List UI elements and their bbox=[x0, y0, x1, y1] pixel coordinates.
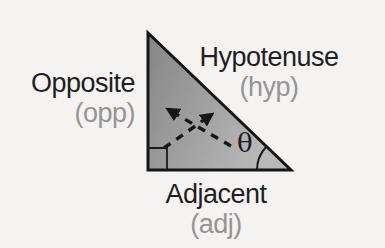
hypotenuse-abbr-text: (hyp) bbox=[199, 72, 339, 102]
trig-triangle-diagram: Opposite (opp) Hypotenuse (hyp) Adjacent… bbox=[0, 0, 385, 248]
hypotenuse-label-text: Hypotenuse bbox=[199, 42, 339, 72]
theta-symbol: θ bbox=[237, 128, 253, 158]
opposite-label-text: Opposite bbox=[31, 68, 135, 98]
adjacent-label-text: Adjacent bbox=[146, 179, 286, 209]
adjacent-abbr-text: (adj) bbox=[146, 209, 286, 239]
hypotenuse-side-label: Hypotenuse (hyp) bbox=[199, 42, 339, 102]
opposite-abbr-text: (opp) bbox=[31, 98, 135, 128]
opposite-side-label: Opposite (opp) bbox=[31, 68, 135, 128]
adjacent-side-label: Adjacent (adj) bbox=[146, 179, 286, 239]
